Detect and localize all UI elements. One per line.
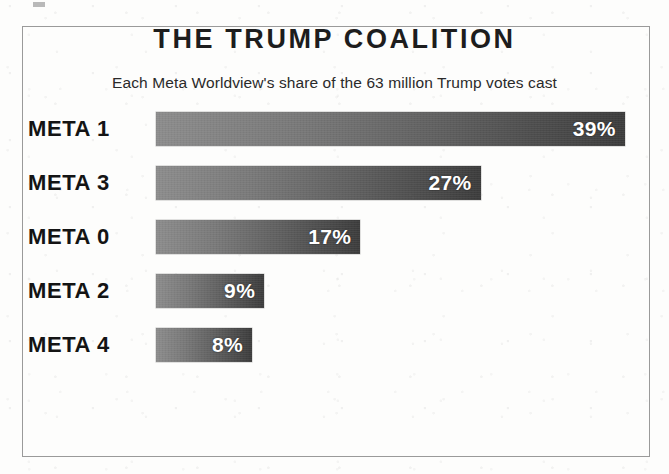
scan-artifact-mark	[33, 2, 45, 7]
bar-value-label: 17%	[308, 220, 351, 254]
bar-value-label: 8%	[212, 328, 243, 362]
bar-value-label: 27%	[428, 166, 471, 200]
bar-value-label: 9%	[224, 274, 255, 308]
bar-value-label: 39%	[573, 112, 616, 146]
